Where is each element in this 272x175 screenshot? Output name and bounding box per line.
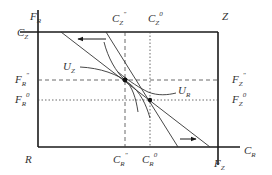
indifference-curve-u-r [118,72,176,95]
label-curve-u-z: UZ [63,60,75,75]
edgeworth-box-diagram: R Z FR CZ CR FZ CZ" CZ0 CR" CR0 FR" FR0 … [0,0,272,175]
label-curve-u-r: UR [178,84,191,99]
label-axis-c-r: CR [244,144,256,159]
label-tick-c-r-double-prime: CR" [113,151,128,168]
budget-line-2 [106,32,178,147]
label-tick-f-r-zero: FR0 [14,91,30,108]
label-tick-c-z-zero: CZ0 [148,10,163,27]
label-axis-f-z: FZ [213,157,225,172]
label-origin-r: R [24,153,32,165]
label-axis-c-z: CZ [17,26,28,41]
indifference-curve-u-z-2 [104,42,138,112]
label-origin-z: Z [222,10,229,22]
label-tick-f-z-double-prime: FZ" [231,71,246,88]
label-axis-f-r: FR [29,10,42,25]
label-tick-f-z-zero: FZ0 [231,91,247,108]
equilibrium-point-2 [148,98,152,102]
label-tick-c-z-double-prime: CZ" [112,10,126,27]
label-tick-c-r-zero: CR0 [142,151,158,168]
label-tick-f-r-double-prime: FR" [14,71,29,88]
equilibrium-point-1 [123,78,128,83]
